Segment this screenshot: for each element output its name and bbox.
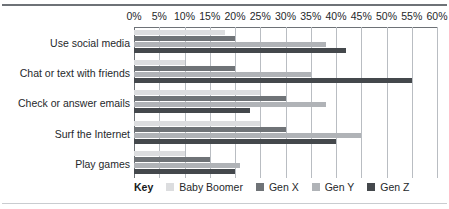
x-tick-label: 5% [152, 9, 167, 23]
category-label: Use social media [2, 37, 130, 49]
legend-swatch-icon [256, 183, 264, 191]
bar [134, 60, 185, 65]
x-tick-label: 60% [426, 9, 447, 23]
bar [134, 42, 326, 47]
bar [134, 30, 225, 35]
chart-legend: Key Baby BoomerGen XGen YGen Z [134, 180, 422, 194]
x-tick-label: 50% [376, 9, 397, 23]
x-tick-label: 15% [199, 9, 220, 23]
bar [134, 90, 260, 95]
bar [134, 96, 286, 101]
bar [134, 66, 235, 71]
legend-label: Baby Boomer [179, 181, 243, 193]
top-divider-rule [2, 4, 447, 6]
legend-swatch-icon [166, 183, 174, 191]
x-axis-tick-labels: 0%5%10%15%20%25%30%35%40%45%50%55%60% [0, 9, 449, 23]
x-tick-label: 40% [325, 9, 346, 23]
bar [134, 102, 326, 107]
legend-swatch-icon [312, 183, 320, 191]
gridline [437, 27, 438, 178]
legend-label: Gen Z [380, 181, 409, 193]
bottom-divider-rule [2, 203, 447, 204]
bar [134, 78, 412, 83]
legend-label: Gen Y [325, 181, 355, 193]
x-tick-label: 45% [351, 9, 372, 23]
bar [134, 139, 336, 144]
legend-label: Gen X [269, 181, 299, 193]
plot-area [134, 27, 437, 178]
bar-group [134, 118, 437, 148]
bar [134, 163, 240, 168]
bar [134, 169, 235, 174]
bar [134, 151, 185, 156]
category-label: Check or answer emails [2, 97, 130, 109]
x-tick-label: 35% [300, 9, 321, 23]
legend-item: Gen X [256, 181, 299, 193]
category-label: Play games [2, 158, 130, 170]
bar-group [134, 87, 437, 117]
bar [134, 133, 361, 138]
bar [134, 36, 235, 41]
legend-item: Baby Boomer [166, 181, 243, 193]
chart-figure: 0%5%10%15%20%25%30%35%40%45%50%55%60% Us… [0, 0, 449, 209]
x-tick-label: 25% [250, 9, 271, 23]
bar-group [134, 148, 437, 178]
category-label: Surf the Internet [2, 128, 130, 140]
bar [134, 48, 346, 53]
bar [134, 108, 250, 113]
bar-group [134, 27, 437, 57]
legend-title: Key [134, 181, 153, 193]
legend-item: Gen Y [312, 181, 355, 193]
y-axis-category-labels: Use social mediaChat or text with friend… [0, 27, 130, 178]
x-tick-label: 30% [275, 9, 296, 23]
bar [134, 127, 286, 132]
x-tick-label: 55% [401, 9, 422, 23]
legend-items: Baby BoomerGen XGen YGen Z [166, 181, 422, 193]
x-tick-label: 20% [224, 9, 245, 23]
bar [134, 121, 260, 126]
x-tick-label: 10% [174, 9, 195, 23]
bar-group [134, 57, 437, 87]
legend-swatch-icon [367, 183, 375, 191]
bar [134, 157, 210, 162]
legend-item: Gen Z [367, 181, 409, 193]
category-label: Chat or text with friends [2, 67, 130, 79]
bar [134, 72, 311, 77]
x-tick-label: 0% [126, 9, 141, 23]
